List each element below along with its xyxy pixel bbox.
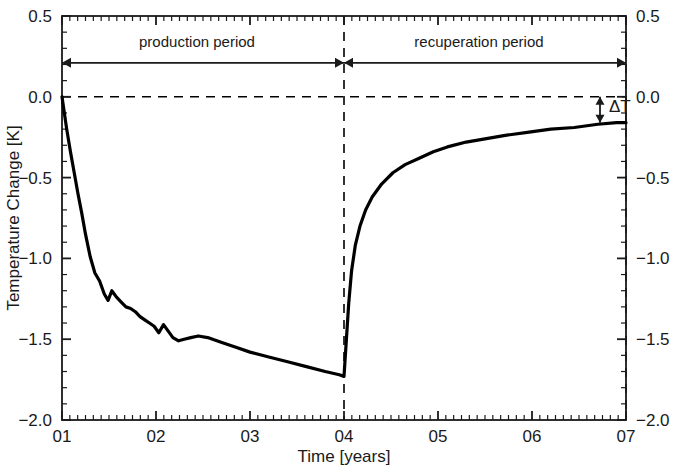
y-axis-title: Temperature Change [K] [4,125,23,310]
y-tick-label: −0.5 [18,169,52,188]
y-tick-label: −1.0 [18,249,52,268]
x-tick-label: 05 [429,427,448,446]
chart-figure: 010203040506070.50.0−0.5−1.0−1.5−2.00.50… [0,0,681,470]
x-tick-label: 07 [617,427,636,446]
x-tick-label: 03 [241,427,260,446]
production-period-label: production period [139,33,255,50]
x-tick-label: 02 [147,427,166,446]
x-tick-label: 04 [335,427,354,446]
y-tick-label-right: −0.5 [636,169,670,188]
recuperation-period-label: recuperation period [414,33,543,50]
y-tick-label-right: 0.0 [636,88,660,107]
y-tick-label-right: −1.0 [636,249,670,268]
temperature-change-line-chart: 010203040506070.50.0−0.5−1.0−1.5−2.00.50… [0,0,681,470]
y-tick-label: −1.5 [18,330,52,349]
chart-background [0,0,681,470]
y-tick-label-right: −2.0 [636,411,670,430]
y-tick-label: 0.5 [28,7,52,26]
delta-t-label: ΔT [609,97,631,116]
y-tick-label-right: −1.5 [636,330,670,349]
x-tick-label: 06 [523,427,542,446]
y-tick-label: 0.0 [28,88,52,107]
y-tick-label-right: 0.5 [636,7,660,26]
x-axis-title: Time [years] [298,447,391,466]
y-tick-label: −2.0 [18,411,52,430]
x-tick-label: 01 [53,427,72,446]
